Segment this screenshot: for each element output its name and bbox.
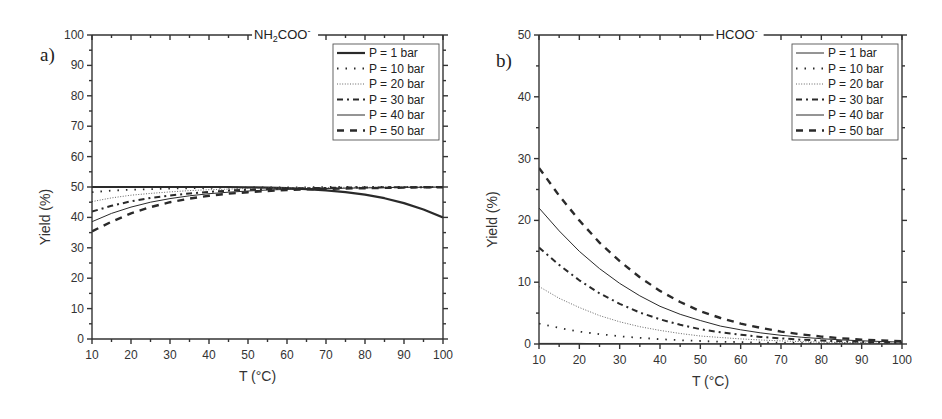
legend-entry-label: P = 30 bar [828, 93, 884, 107]
figure-canvas: 1020304050607080901000102030405060708090… [0, 0, 942, 419]
legend: P = 1 barP = 10 barP = 20 barP = 30 barP… [792, 44, 898, 140]
x-tick-label: 10 [532, 353, 546, 367]
y-axis-title: Yield (%) [37, 189, 53, 245]
y-tick-label: 40 [518, 90, 532, 104]
chart-a-nh2coo-yield: 1020304050607080901000102030405060708090… [37, 26, 453, 384]
y-tick-label: 10 [518, 275, 532, 289]
y-tick-label: 10 [71, 302, 85, 316]
x-tick-label: 60 [280, 348, 294, 362]
x-tick-label: 40 [653, 353, 667, 367]
series-line-30bar [539, 248, 902, 343]
x-axis-title: T (°C) [239, 368, 276, 384]
y-tick-label: 60 [71, 150, 85, 164]
legend-entry-label: P = 40 bar [369, 108, 425, 122]
y-tick-label: 30 [518, 152, 532, 166]
x-tick-label: 20 [124, 348, 138, 362]
series-line-50bar [539, 168, 902, 341]
legend-entry-label: P = 40 bar [828, 108, 884, 122]
x-tick-label: 70 [319, 348, 333, 362]
x-tick-label: 50 [241, 348, 255, 362]
y-tick-label: 20 [71, 271, 85, 285]
x-tick-label: 50 [694, 353, 708, 367]
legend-entry-label: P = 20 bar [369, 77, 425, 91]
y-tick-label: 20 [518, 213, 532, 227]
chart-title: NH2COO- [254, 26, 310, 44]
y-tick-label: 90 [71, 58, 85, 72]
legend-entry-label: P = 50 bar [369, 124, 425, 138]
legend: P = 1 barP = 10 barP = 20 barP = 30 barP… [333, 44, 439, 140]
x-tick-label: 60 [734, 353, 748, 367]
series-line-50bar [92, 187, 443, 231]
y-axis-title: Yield (%) [484, 191, 500, 247]
series-group [92, 187, 443, 231]
legend-entry-label: P = 30 bar [369, 93, 425, 107]
series-line-1bar [92, 187, 443, 217]
x-axis-title: T (°C) [692, 373, 729, 389]
x-tick-label: 90 [855, 353, 869, 367]
series-group [539, 168, 902, 344]
y-tick-label: 30 [71, 241, 85, 255]
legend-entry-label: P = 10 bar [369, 62, 425, 76]
x-tick-label: 30 [613, 353, 627, 367]
legend-entry-label: P = 1 bar [828, 46, 877, 60]
y-tick-label: 80 [71, 89, 85, 103]
legend-entry-label: P = 20 bar [828, 77, 884, 91]
y-tick-label: 100 [64, 28, 84, 42]
x-tick-label: 80 [815, 353, 829, 367]
x-tick-label: 90 [397, 348, 411, 362]
series-line-20bar [539, 287, 902, 344]
x-tick-label: 70 [774, 353, 788, 367]
x-tick-label: 20 [573, 353, 587, 367]
legend-entry-label: P = 1 bar [369, 46, 418, 60]
y-tick-label: 0 [524, 337, 531, 351]
x-tick-label: 100 [433, 348, 453, 362]
y-tick-label: 50 [518, 28, 532, 42]
legend-entry-label: P = 50 bar [828, 124, 884, 138]
y-tick-label: 70 [71, 119, 85, 133]
y-tick-label: 40 [71, 210, 85, 224]
chart-title: HCOO- [716, 26, 758, 42]
x-tick-label: 80 [358, 348, 372, 362]
chart-b-hcoo-yield: 10203040506070809010001020304050T (°C)Yi… [484, 26, 912, 389]
y-tick-label: 50 [71, 180, 85, 194]
x-tick-label: 100 [892, 353, 912, 367]
series-line-40bar [539, 208, 902, 342]
x-tick-label: 30 [163, 348, 177, 362]
x-tick-label: 10 [85, 348, 99, 362]
x-tick-label: 40 [202, 348, 216, 362]
y-tick-label: 0 [77, 332, 84, 346]
series-line-40bar [92, 187, 443, 222]
legend-entry-label: P = 10 bar [828, 62, 884, 76]
